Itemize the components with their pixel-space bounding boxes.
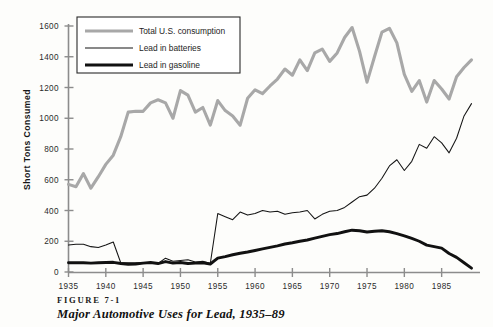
x-tick-label: 1940 [96, 282, 116, 291]
legend-label: Lead in batteries [139, 43, 201, 53]
y-tick-label: 1200 [39, 84, 59, 93]
y-tick-label: 400 [44, 207, 59, 216]
y-tick-label: 1600 [39, 22, 59, 31]
figure-number: FIGURE 7-1 [57, 295, 285, 305]
y-tick-label: 1000 [39, 114, 59, 123]
chart-legend: Total U.S. consumptionLead in batteriesL… [77, 17, 240, 73]
figure-container: 02004006008001000120014001600 1935194019… [0, 0, 493, 327]
y-tick-label: 0 [54, 268, 59, 277]
y-tick-label: 600 [44, 176, 59, 185]
x-tick-label: 1970 [320, 282, 340, 291]
figure-caption: FIGURE 7-1 Major Automotive Uses for Lea… [57, 295, 285, 322]
x-tick-label: 1965 [282, 282, 302, 291]
x-tick-label: 1935 [59, 282, 79, 291]
x-tick-label: 1980 [394, 282, 414, 291]
x-tick-label: 1985 [432, 282, 452, 291]
legend-label: Lead in gasoline [139, 60, 200, 70]
figure-title: Major Automotive Uses for Lead, 1935–89 [57, 307, 285, 322]
y-axis-title: Short Tons Consumed [22, 89, 32, 190]
y-tick-label: 1400 [39, 53, 59, 62]
y-tick-label: 200 [44, 237, 59, 246]
x-tick-label: 1960 [245, 282, 265, 291]
line-chart: 02004006008001000120014001600 1935194019… [0, 0, 493, 300]
y-tick-label: 800 [44, 145, 59, 154]
x-axis-tick-labels: 1935194019451950195519601965197019751980… [59, 282, 452, 291]
x-tick-label: 1950 [171, 282, 191, 291]
x-tick-label: 1955 [208, 282, 228, 291]
x-tick-label: 1945 [133, 282, 153, 291]
legend-label: Total U.S. consumption [139, 26, 225, 36]
x-tick-label: 1975 [357, 282, 377, 291]
y-axis-tick-labels: 02004006008001000120014001600 [39, 22, 59, 277]
